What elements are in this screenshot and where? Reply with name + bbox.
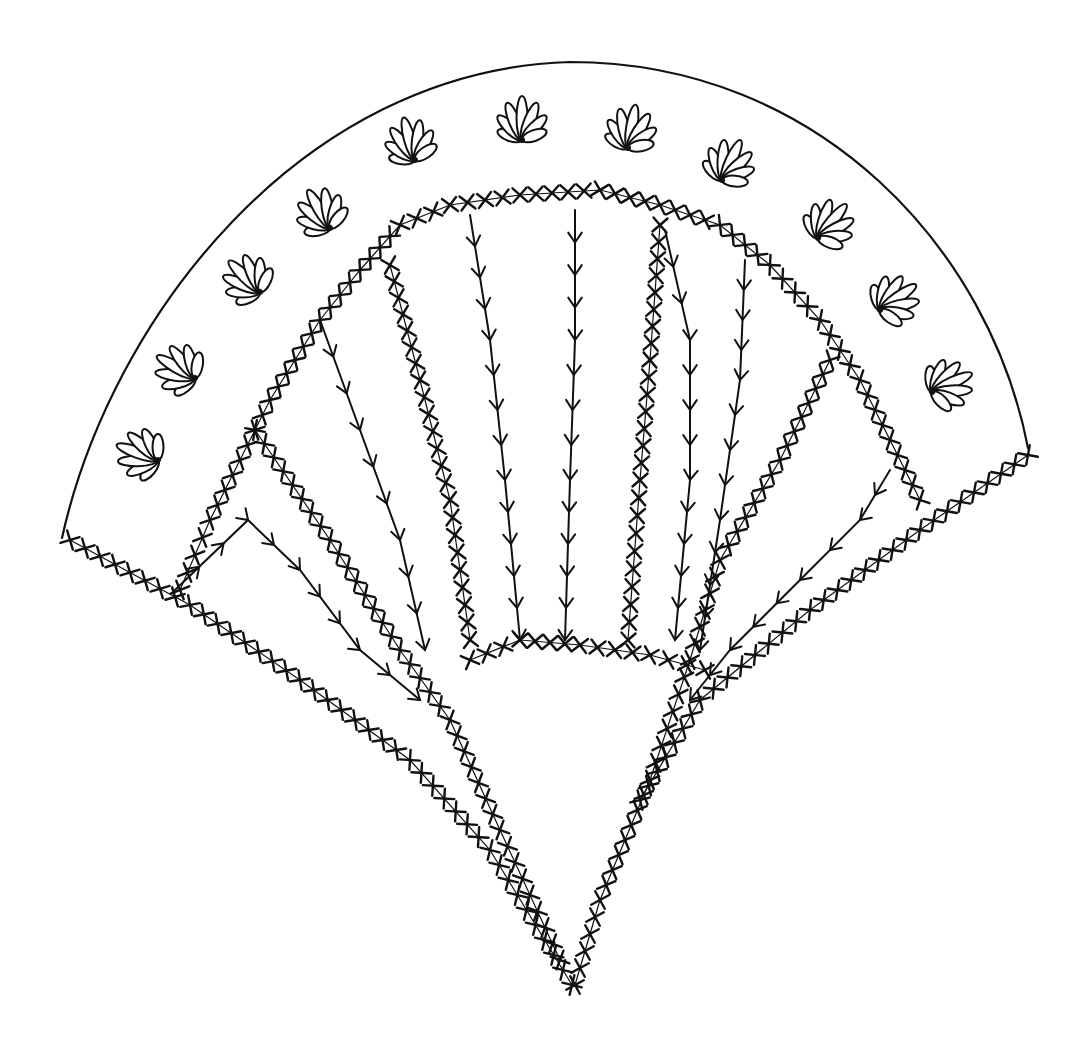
flower-motif-icon bbox=[209, 241, 283, 315]
lace-fan-diagram bbox=[0, 0, 1082, 1051]
flower-motif-icon bbox=[860, 262, 932, 336]
flower-motif-icon bbox=[107, 419, 172, 488]
flower-motif-icon bbox=[143, 332, 214, 405]
flower-motif-icon bbox=[916, 348, 984, 419]
flower-motif-icon bbox=[695, 128, 766, 196]
flower-motif-icon bbox=[793, 186, 867, 260]
flower-motif-icon bbox=[600, 100, 664, 158]
flower-motif-icon bbox=[494, 96, 550, 145]
flower-motif-icon bbox=[377, 110, 444, 172]
flower-motif-icon bbox=[284, 176, 357, 247]
fan-flower-motifs bbox=[107, 96, 984, 488]
